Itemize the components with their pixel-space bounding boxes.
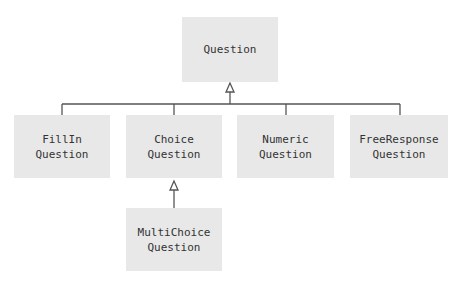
class-label: MultiChoice	[138, 225, 211, 240]
class-freeresponse-question: FreeResponse Question	[350, 115, 448, 178]
class-label: FillIn	[42, 132, 82, 147]
inheritance-arrow-icon	[226, 83, 234, 92]
class-choice-question: Choice Question	[126, 115, 222, 178]
class-multichoice-question: MultiChoice Question	[126, 208, 222, 271]
class-label: Question	[148, 147, 201, 162]
class-numeric-question: Numeric Question	[237, 115, 334, 178]
class-label: Numeric	[262, 132, 308, 147]
class-label: Question	[148, 240, 201, 255]
inheritance-arrow-icon	[170, 181, 178, 190]
class-label: Question	[373, 147, 426, 162]
class-question: Question	[182, 17, 278, 82]
class-label: FreeResponse	[359, 132, 438, 147]
class-label: Question	[36, 147, 89, 162]
class-label: Question	[259, 147, 312, 162]
class-label: Choice	[154, 132, 194, 147]
class-fillin-question: FillIn Question	[14, 115, 110, 178]
class-label: Question	[204, 42, 257, 57]
